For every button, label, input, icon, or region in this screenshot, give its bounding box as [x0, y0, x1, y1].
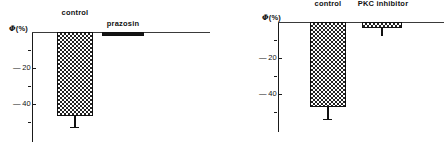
y-tick-dash-40-left: — [13, 99, 21, 108]
y-tick-minor-10-right [274, 40, 277, 41]
y-axis-line-right [278, 22, 279, 132]
y-tick-dash-20-left: — [13, 63, 21, 72]
y-tick-dash-40-right: — [259, 89, 267, 98]
error-cap-control-right [323, 119, 332, 120]
error-bar-pkc-inhibitor-right [381, 28, 383, 36]
y-tick-dash-20-right: — [259, 53, 267, 62]
plot-area-right: Φ(%) — 20 — 40 control PKC inhibitor [222, 0, 444, 146]
zero-baseline-right [278, 22, 444, 23]
y-axis-symbol-right: Φ [262, 13, 269, 22]
y-tick-20-right [278, 58, 282, 59]
bar-label-control-right: control [308, 0, 348, 8]
chart-panel-left: Φ(%) — 20 — 40 control prazosin [0, 0, 222, 146]
y-axis-title-left: Φ(%) [9, 24, 28, 33]
bar-prazosin-left [102, 32, 144, 36]
bar-control-right [310, 22, 346, 107]
plot-area-left: Φ(%) — 20 — 40 control prazosin [0, 0, 222, 146]
y-tick-minor-50-right [274, 112, 277, 113]
y-tick-label-20-left: 20 [21, 63, 31, 72]
y-axis-unit-right: (%) [269, 13, 281, 22]
y-axis-title-right: Φ(%) [262, 13, 281, 22]
y-tick-minor-30-right [274, 76, 277, 77]
y-tick-40-left [32, 104, 36, 105]
y-tick-minor-10-left [28, 50, 31, 51]
y-tick-40-right [278, 94, 282, 95]
y-axis-line-left [32, 32, 33, 142]
bar-label-control-left: control [55, 8, 95, 17]
chart-panel-right: Φ(%) — 20 — 40 control PKC inhibitor [222, 0, 444, 146]
figure-container: Φ(%) — 20 — 40 control prazosin [0, 0, 444, 146]
y-tick-20-left [32, 68, 36, 69]
y-tick-minor-30-left [28, 86, 31, 87]
bar-label-prazosin-left: prazosin [101, 19, 145, 28]
y-axis-unit-left: (%) [16, 24, 28, 33]
bar-label-pkc-inhibitor-right: PKC inhibitor [355, 0, 411, 8]
y-axis-symbol-left: Φ [9, 24, 16, 33]
y-tick-label-40-right: 40 [267, 89, 277, 98]
error-cap-control-left [70, 127, 79, 128]
y-tick-label-40-left: 40 [21, 99, 31, 108]
bar-control-left [57, 32, 93, 116]
error-bar-control-right [327, 107, 329, 119]
y-tick-label-20-right: 20 [267, 53, 277, 62]
y-tick-minor-50-left [28, 122, 31, 123]
error-bar-control-left [74, 116, 76, 127]
